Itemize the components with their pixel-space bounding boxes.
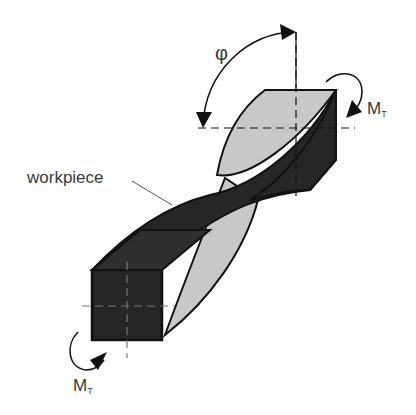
angle-arrowhead-top-icon: [280, 24, 296, 40]
top-torque-label: MT: [367, 99, 387, 119]
angle-arrowhead-bottom-icon: [196, 112, 212, 128]
torsion-diagram: φ MT MT workpiece: [0, 0, 416, 415]
angle-label: φ: [215, 42, 228, 64]
workpiece-leader-line: [132, 181, 172, 205]
bottom-torque-label: MT: [73, 376, 93, 396]
workpiece-label: workpiece: [26, 168, 104, 187]
bottom-torque-arrowhead-icon: [90, 352, 107, 370]
